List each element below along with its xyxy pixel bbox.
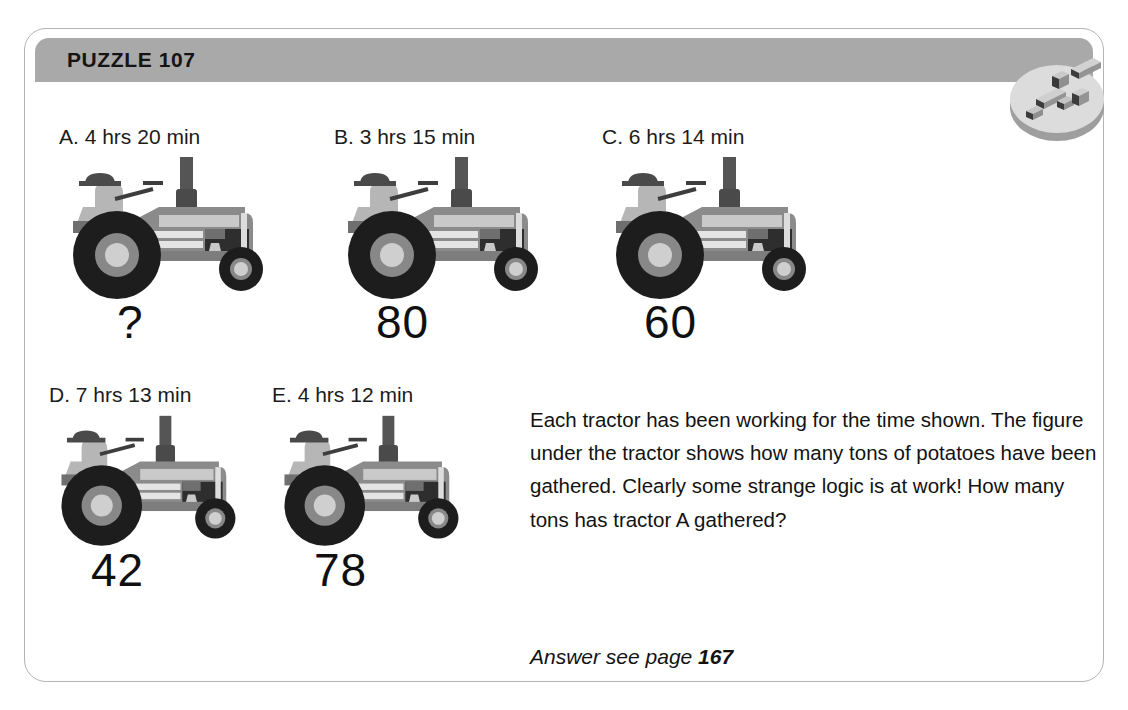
tractor-label-c: C. 6 hrs 14 min (602, 125, 823, 149)
tractor-label-a: A. 4 hrs 20 min (59, 125, 280, 149)
tractor-item-d: D. 7 hrs 13 min (45, 383, 251, 593)
tractor-item-a: A. 4 hrs 20 min (55, 125, 280, 345)
tractor-illustration-a (55, 151, 280, 301)
answer-page-number: 167 (698, 645, 733, 668)
tractor-value-d: 42 (91, 547, 251, 593)
puzzle-description: Each tractor has been working for the ti… (530, 403, 1100, 536)
tractor-illustration-b (330, 151, 555, 301)
tractor-label-e: E. 4 hrs 12 min (272, 383, 474, 407)
tractor-label-d: D. 7 hrs 13 min (49, 383, 251, 407)
tractor-item-c: C. 6 hrs 14 min (598, 125, 823, 345)
tractor-value-e: 78 (314, 547, 474, 593)
tractor-illustration-d (45, 409, 251, 549)
answer-prefix: Answer see page (530, 645, 698, 668)
tractor-item-e: E. 4 hrs 12 min (268, 383, 474, 593)
puzzle-header-band: PUZZLE 107 (35, 38, 1093, 82)
tractor-illustration-e (268, 409, 474, 549)
puzzle-card: PUZZLE 107 (24, 28, 1104, 682)
answer-reference: Answer see page 167 (530, 645, 733, 669)
tractor-value-c: 60 (644, 299, 823, 345)
tractor-value-b: 80 (376, 299, 555, 345)
tractor-illustration-c (598, 151, 823, 301)
page-title: PUZZLE 107 (67, 48, 196, 72)
tractor-item-b: B. 3 hrs 15 min (330, 125, 555, 345)
tractor-label-b: B. 3 hrs 15 min (334, 125, 555, 149)
tractor-value-a: ? (117, 299, 280, 345)
puzzle-content: A. 4 hrs 20 min (25, 83, 1105, 681)
